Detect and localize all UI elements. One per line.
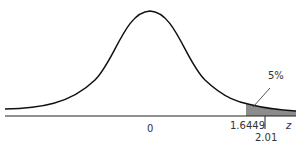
axis-label-z: z xyxy=(286,121,291,131)
tail-pointer-line xyxy=(253,88,270,107)
tick-label-zero: 0 xyxy=(147,124,153,134)
tick-label-critical: 1.6449 xyxy=(230,121,265,131)
tick-label-observed: 2.01 xyxy=(255,133,277,143)
normal-curve xyxy=(5,11,296,111)
tail-area-label: 5% xyxy=(268,71,284,81)
